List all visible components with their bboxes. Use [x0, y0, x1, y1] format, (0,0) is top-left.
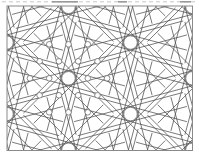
screenshot-canvas: [0, 0, 199, 157]
lattice-circle: [85, 42, 91, 48]
star-ring: [124, 107, 138, 121]
lattice-circle: [85, 76, 91, 82]
lattice-circle: [66, 42, 72, 48]
star-ring: [62, 72, 76, 86]
lattice-circle: [104, 76, 110, 82]
pattern-figure: [0, 0, 199, 157]
lattice-circle: [46, 42, 52, 48]
lattice-circle: [66, 110, 72, 116]
lattice-circle: [56, 93, 62, 99]
lattice-circle: [95, 93, 101, 99]
lattice-circle: [37, 93, 43, 99]
star-ring: [124, 36, 138, 50]
lattice-circle: [56, 59, 62, 65]
lattice-circle: [75, 59, 81, 65]
lattice-circle: [95, 59, 101, 65]
lattice-circle: [46, 110, 52, 116]
lattice-circle: [46, 76, 52, 82]
lattice-circle: [75, 93, 81, 99]
lattice-circle: [27, 76, 33, 82]
lattice-circle: [85, 110, 91, 116]
lattice-circle: [37, 59, 43, 65]
